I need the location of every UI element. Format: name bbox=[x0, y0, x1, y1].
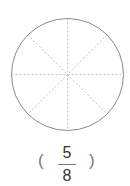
fraction: 5 8 bbox=[57, 145, 77, 184]
divider-lines bbox=[12, 19, 124, 131]
numerator: 5 bbox=[57, 145, 77, 161]
close-paren: ) bbox=[89, 151, 95, 171]
open-paren: ( bbox=[38, 151, 44, 171]
circle-diagram bbox=[0, 0, 130, 140]
denominator: 8 bbox=[57, 168, 77, 184]
fraction-bar bbox=[58, 164, 76, 165]
answer-fraction: ( 5 8 ) bbox=[0, 140, 130, 186]
